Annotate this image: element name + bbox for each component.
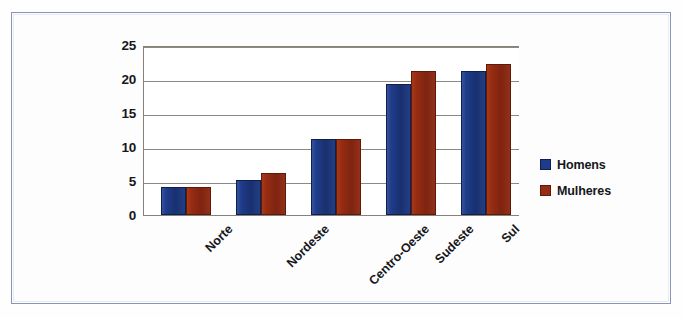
y-axis-tick-label: 0 — [90, 209, 136, 223]
legend-item-mulheres[interactable]: Mulheres — [540, 181, 650, 200]
bar-homens-nordeste[interactable] — [236, 180, 261, 215]
bar-group — [311, 47, 361, 215]
page-frame: 0510152025 NorteNordesteCentro-OesteSude… — [11, 12, 671, 304]
bar-homens-norte[interactable] — [161, 187, 186, 215]
y-axis: 0510152025 — [88, 46, 136, 216]
bar-group — [386, 47, 436, 215]
y-axis-tick-label: 15 — [90, 107, 136, 121]
x-axis-tick-label: Norte — [202, 222, 235, 255]
legend-item-label: Homens — [557, 158, 606, 172]
bar-homens-sudeste[interactable] — [386, 84, 411, 215]
legend-swatch-icon — [540, 185, 551, 196]
x-axis-tick-label: Centro-Oeste — [366, 222, 432, 288]
x-axis-tick-label: Sul — [499, 222, 523, 246]
bar-homens-centro-oeste[interactable] — [311, 139, 336, 215]
bar-mulheres-nordeste[interactable] — [261, 173, 286, 215]
bar-mulheres-centro-oeste[interactable] — [336, 139, 361, 215]
bar-group — [461, 47, 511, 215]
bar-mulheres-norte[interactable] — [186, 187, 211, 215]
legend-item-homens[interactable]: Homens — [540, 155, 650, 174]
bar-homens-sul[interactable] — [461, 71, 486, 215]
y-axis-tick-label: 10 — [90, 141, 136, 155]
bar-mulheres-sudeste[interactable] — [411, 71, 436, 215]
y-axis-tick-label: 20 — [90, 73, 136, 87]
y-axis-tick-label: 25 — [90, 39, 136, 53]
bar-group — [236, 47, 286, 215]
bar-mulheres-sul[interactable] — [486, 64, 511, 215]
x-axis-tick-label: Sudeste — [432, 222, 476, 266]
legend-item-label: Mulheres — [557, 184, 611, 198]
chart-screenshot: 0510152025 NorteNordesteCentro-OesteSude… — [0, 0, 684, 318]
bar-group — [161, 47, 211, 215]
x-axis: NorteNordesteCentro-OesteSudesteSul — [143, 216, 519, 296]
chart-legend: HomensMulheres — [540, 155, 650, 207]
x-axis-tick-label: Nordeste — [284, 222, 332, 270]
legend-swatch-icon — [540, 159, 551, 170]
y-axis-tick-label: 5 — [90, 175, 136, 189]
plot-area — [143, 46, 519, 216]
